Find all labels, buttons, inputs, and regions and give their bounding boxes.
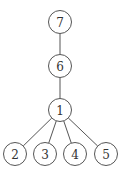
node-label: 2 bbox=[11, 148, 19, 162]
node-label: 4 bbox=[71, 148, 79, 162]
tree-node-2: 2 bbox=[4, 143, 27, 166]
edge-1-3 bbox=[49, 121, 57, 143]
tree-node-4: 4 bbox=[64, 143, 87, 166]
node-label: 7 bbox=[56, 16, 64, 30]
node-label: 5 bbox=[102, 148, 110, 162]
edge-1-2 bbox=[23, 118, 52, 146]
tree-diagram: 7612345 bbox=[0, 0, 127, 179]
edge-1-4 bbox=[64, 121, 72, 143]
edges bbox=[23, 34, 97, 147]
tree-node-7: 7 bbox=[49, 11, 72, 34]
edge-1-5 bbox=[68, 118, 97, 146]
node-label: 3 bbox=[41, 148, 49, 162]
tree-node-3: 3 bbox=[34, 143, 57, 166]
tree-node-1: 1 bbox=[49, 99, 72, 122]
node-label: 1 bbox=[56, 104, 64, 118]
node-label: 6 bbox=[56, 60, 64, 74]
tree-node-6: 6 bbox=[49, 55, 72, 78]
tree-node-5: 5 bbox=[95, 143, 118, 166]
